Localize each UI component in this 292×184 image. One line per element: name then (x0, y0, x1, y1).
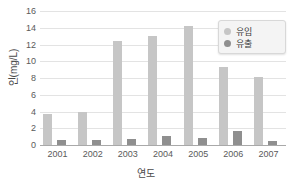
y-axis-tick-label: 4 (31, 107, 36, 117)
bar-유출-2001[interactable] (57, 140, 66, 145)
bar-유입-2003[interactable] (113, 41, 122, 145)
y-axis-tick-label: 10 (26, 56, 36, 66)
x-axis-tick-label: 2004 (153, 149, 173, 159)
legend-swatch-inflow-icon (224, 28, 231, 35)
bar-group (110, 11, 145, 145)
x-axis-tick-label: 2003 (118, 149, 138, 159)
legend-item-inflow[interactable]: 유입 (224, 25, 280, 37)
x-axis-tick-label: 2005 (188, 149, 208, 159)
x-axis-tick-label: 2001 (48, 149, 68, 159)
bar-chart: 인(mg/L) 0246810121416 200120022003200420… (0, 0, 292, 184)
legend-label-outflow: 유출 (236, 37, 252, 50)
bar-유입-2004[interactable] (148, 36, 157, 145)
bar-유입-2002[interactable] (78, 112, 87, 146)
bar-유출-2004[interactable] (162, 136, 171, 145)
bar-group (181, 11, 216, 145)
gridline (40, 145, 286, 146)
y-axis-tick-label: 16 (26, 6, 36, 16)
x-axis-tick-label: 2002 (83, 149, 103, 159)
bar-유입-2005[interactable] (184, 26, 193, 145)
legend-item-outflow[interactable]: 유출 (224, 37, 280, 49)
bar-group (40, 11, 75, 145)
bar-유출-2006[interactable] (233, 131, 242, 145)
legend: 유입 유출 (218, 20, 286, 54)
y-axis-tick-label: 6 (31, 90, 36, 100)
y-axis-tick-label: 8 (31, 73, 36, 83)
bar-유입-2006[interactable] (219, 67, 228, 145)
bar-유입-2007[interactable] (254, 77, 263, 145)
bar-group (75, 11, 110, 145)
y-axis-tick-label: 14 (26, 23, 36, 33)
y-axis-tick-label: 12 (26, 40, 36, 50)
legend-swatch-outflow-icon (224, 40, 231, 47)
y-axis-title: 인(mg/L) (5, 23, 20, 113)
y-axis-tick-label: 0 (31, 140, 36, 150)
bar-group (145, 11, 180, 145)
bar-유출-2005[interactable] (198, 138, 207, 145)
x-axis-tick-label: 2007 (258, 149, 278, 159)
y-axis-tick-label: 2 (31, 123, 36, 133)
x-axis-title: 연도 (0, 165, 292, 180)
bar-유출-2003[interactable] (127, 139, 136, 145)
bar-유출-2007[interactable] (268, 141, 277, 145)
bar-유출-2002[interactable] (92, 140, 101, 145)
x-axis-tick-label: 2006 (223, 149, 243, 159)
bar-유입-2001[interactable] (43, 114, 52, 145)
